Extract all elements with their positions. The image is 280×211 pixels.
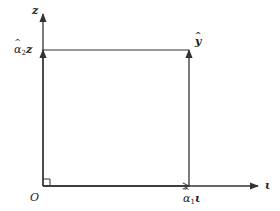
z-axis-label: z — [32, 5, 38, 16]
alpha2-symbol: α — [14, 44, 21, 55]
alpha1-iota-label: α1ι — [183, 193, 200, 206]
iota-axis-label: ι — [265, 180, 270, 191]
alpha2-vector: z — [26, 43, 32, 56]
alpha2-z-label: α2z — [14, 44, 32, 57]
origin-label: O — [30, 192, 39, 203]
diagram-canvas — [0, 0, 280, 211]
right-angle-marker — [43, 179, 50, 186]
y-hat-label: y — [195, 36, 201, 47]
alpha1-symbol: α — [183, 193, 190, 204]
alpha1-vector: ι — [195, 192, 200, 205]
